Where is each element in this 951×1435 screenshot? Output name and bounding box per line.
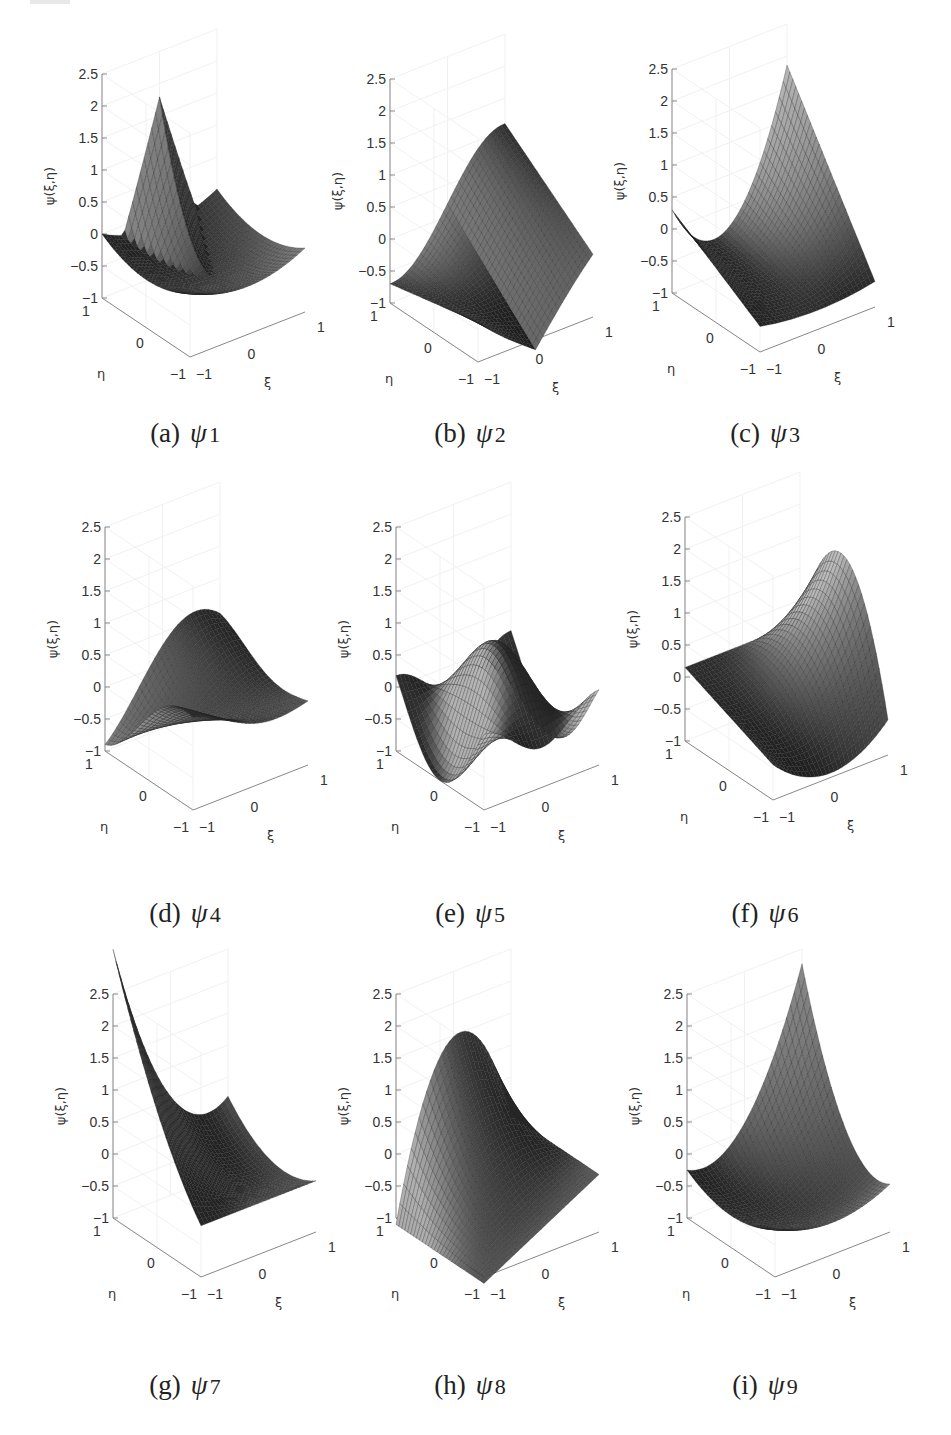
caption-index: 4: [210, 902, 221, 927]
surface-mesh: [672, 65, 875, 326]
eta-tick-label: −1: [740, 361, 756, 377]
panel-f: 2.521.510.50−0.5−110−1−101ψ(ξ,η)ηξ (f)ψ6: [610, 480, 951, 950]
caption-psi: ψ: [190, 418, 207, 448]
caption-letter: (f): [732, 898, 759, 928]
eta-axis-label: η: [680, 809, 688, 824]
z-axis-label: ψ(ξ,η): [336, 620, 351, 658]
caption-h: (h)ψ8: [434, 1370, 505, 1401]
z-tick-label: 2: [660, 93, 668, 109]
z-tick-label: 2.5: [373, 519, 393, 535]
z-tick-label: −0.5: [364, 711, 392, 727]
xi-axis-label: ξ: [275, 1295, 282, 1310]
z-tick-label: 2: [384, 551, 392, 567]
eta-tick-label: −1: [755, 1286, 771, 1302]
z-tick-label: 1.5: [649, 125, 669, 141]
z-tick-label: 2.5: [82, 519, 102, 535]
z-axis-label: ψ(ξ,η): [45, 620, 60, 658]
z-tick-label: 1: [384, 1082, 392, 1098]
caption-psi: ψ: [770, 418, 787, 448]
caption-b: (b)ψ2: [434, 418, 505, 449]
surface-plot-psi7: 2.521.510.50−0.5−110−1−101ψ(ξ,η)ηξ: [0, 965, 320, 1435]
z-tick-label: 2.5: [367, 71, 387, 87]
surface-mesh: [105, 609, 308, 745]
xi-tick-label: 0: [833, 1266, 841, 1282]
eta-tick-label: 1: [667, 1223, 675, 1239]
caption-letter: (b): [434, 418, 465, 448]
z-tick-label: 0.5: [367, 199, 387, 215]
eta-axis-label: η: [97, 366, 105, 381]
caption-i: (i)ψ9: [732, 1370, 797, 1401]
caption-letter: (d): [149, 898, 180, 928]
z-tick-label: 0.5: [82, 647, 102, 663]
eta-tick-label: 0: [721, 1255, 729, 1271]
surface-plot-psi4: 2.521.510.50−0.5−110−1−101ψ(ξ,η)ηξ: [0, 480, 320, 950]
z-tick-label: 2: [673, 541, 681, 557]
xi-axis-label: ξ: [558, 828, 565, 843]
caption-psi: ψ: [476, 418, 493, 448]
caption-letter: (c): [730, 418, 760, 448]
panel-e: 2.521.510.50−0.5−110−1−101ψ(ξ,η)ηξ (e)ψ5: [300, 480, 620, 950]
xi-tick-label: 0: [536, 351, 544, 367]
panel-h: 2.521.510.50−0.5−110−1−101ψ(ξ,η)ηξ (h)ψ8: [300, 965, 620, 1435]
z-axis-label: ψ(ξ,η): [625, 610, 640, 648]
z-tick-label: 2.5: [664, 986, 684, 1002]
panel-d: 2.521.510.50−0.5−110−1−101ψ(ξ,η)ηξ (d)ψ4: [0, 480, 320, 950]
z-tick-label: 1.5: [373, 583, 393, 599]
z-axis-label: ψ(ξ,η): [330, 172, 345, 210]
surface-mesh: [390, 124, 593, 350]
panel-c: 2.521.510.50−0.5−110−1−101ψ(ξ,η)ηξ (c)ψ3: [610, 0, 951, 470]
xi-axis-label: ξ: [558, 1295, 565, 1310]
z-tick-label: 0: [675, 1146, 683, 1162]
caption-index: 2: [495, 422, 506, 447]
surface-mesh: [396, 1031, 599, 1283]
z-tick-label: 0.5: [373, 647, 393, 663]
eta-tick-label: 1: [82, 303, 90, 319]
eta-tick-label: 1: [376, 1223, 384, 1239]
surface-plot-psi3: 2.521.510.50−0.5−110−1−101ψ(ξ,η)ηξ: [610, 0, 951, 470]
xi-axis-label: ξ: [552, 380, 559, 395]
xi-tick-label: −1: [199, 819, 215, 835]
z-tick-label: 1.5: [664, 1050, 684, 1066]
z-tick-label: 0: [660, 221, 668, 237]
eta-tick-label: 1: [652, 298, 660, 314]
z-tick-label: 1.5: [662, 573, 682, 589]
xi-tick-label: −1: [766, 361, 782, 377]
surface-mesh: [685, 551, 888, 777]
z-tick-label: 2.5: [79, 66, 99, 82]
caption-letter: (e): [435, 898, 465, 928]
eta-axis-label: η: [391, 1286, 399, 1301]
z-tick-label: 1: [93, 615, 101, 631]
caption-psi: ψ: [191, 898, 208, 928]
z-tick-label: 2: [675, 1018, 683, 1034]
eta-tick-label: 1: [370, 308, 378, 324]
eta-tick-label: 0: [430, 788, 438, 804]
eta-axis-label: η: [100, 819, 108, 834]
eta-tick-label: −1: [181, 1286, 197, 1302]
z-tick-label: 0: [384, 1146, 392, 1162]
xi-tick-label: −1: [490, 819, 506, 835]
surface-mesh: [687, 964, 890, 1231]
surface-plot-psi5: 2.521.510.50−0.5−110−1−101ψ(ξ,η)ηξ: [300, 480, 620, 950]
eta-tick-label: 0: [147, 1255, 155, 1271]
eta-tick-label: −1: [464, 1286, 480, 1302]
xi-tick-label: 0: [248, 346, 256, 362]
eta-axis-label: η: [667, 361, 675, 376]
z-tick-label: 1: [90, 162, 98, 178]
panel-b: 2.521.510.50−0.5−110−1−101ψ(ξ,η)ηξ (b)ψ2: [300, 0, 620, 470]
eta-tick-label: 0: [139, 788, 147, 804]
eta-tick-label: 1: [93, 1223, 101, 1239]
z-tick-label: −0.5: [653, 701, 681, 717]
eta-axis-label: η: [682, 1286, 690, 1301]
xi-tick-label: −1: [779, 809, 795, 825]
caption-a: (a)ψ1: [150, 418, 220, 449]
eta-axis-label: η: [108, 1286, 116, 1301]
surface-plot-psi2: 2.521.510.50−0.5−110−1−101ψ(ξ,η)ηξ: [300, 0, 620, 470]
eta-tick-label: 0: [706, 330, 714, 346]
eta-axis-label: η: [391, 819, 399, 834]
eta-tick-label: −1: [458, 371, 474, 387]
eta-tick-label: 0: [719, 778, 727, 794]
xi-tick-label: −1: [484, 371, 500, 387]
z-tick-label: 0: [101, 1146, 109, 1162]
z-tick-label: 0.5: [649, 189, 669, 205]
z-tick-label: 1.5: [90, 1050, 110, 1066]
